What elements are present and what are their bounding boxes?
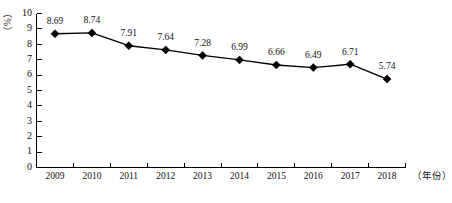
y-tick-label-8: 8 [27, 38, 32, 49]
x-tick-label-2015: 2015 [267, 171, 286, 181]
data-point-2016 [309, 64, 317, 72]
x-axis-tick-labels: 2009 2010 2011 2012 2013 2014 2015 2016 … [46, 171, 397, 181]
y-tick-label-5: 5 [27, 84, 32, 95]
x-tick-label-2016: 2016 [304, 171, 323, 181]
data-point-2009 [51, 30, 59, 38]
data-labels: 8.69 8.74 7.91 7.64 7.28 6.99 6.66 6.49 … [47, 15, 396, 71]
data-label-2010: 8.74 [84, 15, 101, 25]
data-label-2018: 5.74 [379, 61, 396, 71]
y-tick-label-4: 4 [27, 99, 32, 110]
x-tick-label-2018: 2018 [378, 171, 397, 181]
x-axis-ticks [37, 163, 406, 168]
x-tick-label-2012: 2012 [156, 171, 175, 181]
data-point-2010 [88, 29, 96, 37]
data-label-2013: 7.28 [194, 38, 211, 48]
data-label-2016: 6.49 [305, 50, 322, 60]
y-axis-unit-label: （%） [2, 8, 13, 36]
data-point-2012 [162, 46, 170, 54]
x-tick-label-2014: 2014 [230, 171, 249, 181]
data-point-2015 [272, 61, 280, 69]
y-tick-label-6: 6 [27, 68, 32, 79]
data-point-2017 [346, 60, 354, 68]
data-point-2013 [199, 51, 207, 59]
data-point-2018 [383, 75, 391, 83]
data-point-2014 [236, 56, 244, 64]
data-label-2014: 6.99 [231, 42, 248, 52]
data-label-2015: 6.66 [268, 47, 285, 57]
x-tick-label-2013: 2013 [193, 171, 212, 181]
y-tick-label-10: 10 [22, 7, 32, 18]
x-tick-label-2009: 2009 [46, 171, 65, 181]
x-tick-label-2011: 2011 [119, 171, 138, 181]
data-label-2011: 7.91 [120, 28, 137, 38]
y-tick-label-3: 3 [27, 115, 32, 126]
chart-canvas: （%） 0 1 2 3 4 5 6 7 8 [0, 0, 452, 203]
x-tick-label-2010: 2010 [82, 171, 101, 181]
x-axis-unit-label: （年份） [412, 170, 452, 181]
x-tick-label-2017: 2017 [341, 171, 360, 181]
y-tick-label-1: 1 [27, 145, 32, 156]
data-label-2012: 7.64 [157, 32, 174, 42]
data-label-2009: 8.69 [47, 16, 64, 26]
y-tick-label-2: 2 [27, 130, 32, 141]
y-tick-label-7: 7 [27, 53, 32, 64]
line-chart: （%） 0 1 2 3 4 5 6 7 8 [0, 0, 452, 203]
y-tick-label-9: 9 [27, 22, 32, 33]
data-point-2011 [125, 42, 133, 50]
data-label-2017: 6.71 [342, 47, 359, 57]
y-axis-ticks [37, 14, 42, 168]
series-line [55, 33, 387, 79]
y-tick-label-0: 0 [27, 161, 32, 172]
y-axis-tick-labels: 0 1 2 3 4 5 6 7 8 9 10 [22, 7, 32, 172]
